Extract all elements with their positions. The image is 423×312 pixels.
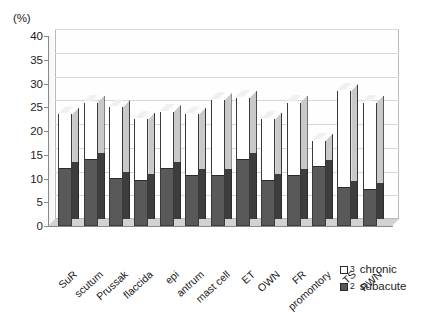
y-axis-tick-label: 25 (30, 101, 43, 113)
chart-legend: 3 chronic 2 subacute (340, 262, 406, 296)
y-axis-tick-label: 20 (30, 125, 43, 137)
gridline (55, 29, 399, 30)
legend-swatch-chronic-icon (340, 266, 348, 274)
x-axis-line (48, 226, 393, 227)
bar-group[interactable] (160, 105, 181, 226)
bar-side-face (351, 84, 358, 219)
x-axis-category-label: FR (289, 268, 307, 286)
bar-front-face (109, 107, 123, 226)
bar-segment-subacute (161, 168, 173, 225)
x-axis-category-label: epi (162, 268, 180, 286)
bar-front-face (363, 103, 377, 227)
bar-side-subacute (98, 153, 105, 220)
bar-group[interactable] (287, 96, 308, 227)
bar-side-face (377, 96, 384, 220)
bar-front-face (211, 100, 225, 226)
y-axis-tick-label: 35 (30, 54, 43, 66)
bar-group[interactable] (236, 91, 257, 226)
y-axis-line (48, 36, 49, 226)
bar-segment-subacute (237, 159, 249, 226)
bar-segment-chronic (338, 90, 350, 187)
bar-segment-subacute (364, 189, 376, 225)
bar-side-subacute (174, 162, 181, 219)
legend-number-chronic: 3 (350, 262, 355, 277)
y-axis-tick-label: 40 (30, 30, 43, 42)
bar-segment-chronic (85, 102, 97, 159)
bar-side-face (174, 105, 181, 219)
bar-side-subacute (199, 169, 206, 219)
y-axis-tick-label: 5 (37, 196, 43, 208)
bar-group[interactable] (211, 93, 232, 226)
y-axis-tick-label: 0 (37, 220, 43, 232)
x-axis-category-label: OWN (255, 268, 282, 294)
bar-segment-chronic (313, 140, 325, 166)
gridline (55, 53, 399, 54)
bar-side-subacute (377, 183, 384, 219)
bar-front-face (160, 112, 174, 226)
bar-side-face (301, 96, 308, 220)
bar-segment-chronic (110, 106, 122, 177)
bar-side-face (148, 112, 155, 219)
legend-label-subacute: subacute (360, 279, 407, 294)
bar-side-subacute (225, 169, 232, 219)
bar-side-subacute (326, 160, 333, 219)
bar-side-face (98, 96, 105, 220)
bar-side-subacute (275, 174, 282, 219)
y-axis-tick-label: 30 (30, 78, 43, 90)
bar-segment-chronic (262, 118, 274, 180)
bar-group[interactable] (109, 100, 130, 226)
legend-swatch-subacute-icon (340, 283, 348, 291)
legend-number-subacute: 2 (350, 279, 355, 294)
y-axis-tick-label: 10 (30, 173, 43, 185)
bar-segment-subacute (135, 180, 147, 225)
bar-group[interactable] (312, 134, 333, 227)
bar-side-subacute (148, 174, 155, 219)
bar-segment-subacute (338, 187, 350, 225)
bar-segment-subacute (85, 159, 97, 226)
bar-segment-subacute (186, 175, 198, 225)
bar-segment-chronic (186, 113, 198, 175)
legend-item-subacute: 2 subacute (340, 279, 406, 294)
bar-segment-chronic (364, 102, 376, 190)
bar-side-subacute (72, 162, 79, 219)
bar-side-face (250, 91, 257, 219)
x-axis-category-label: ET (239, 268, 257, 286)
y-axis-tick-label: 15 (30, 149, 43, 161)
bar-group[interactable] (261, 112, 282, 226)
bar-segment-chronic (212, 99, 224, 175)
bar-front-face (261, 119, 275, 226)
bar-side-face (225, 93, 232, 219)
bar-side-subacute (351, 181, 358, 219)
bar-segment-chronic (135, 118, 147, 180)
plot-area: 0510152025303540 SuRscutumPrussakflaccid… (48, 36, 392, 226)
bar-front-face (185, 114, 199, 226)
bar-group[interactable] (337, 84, 358, 226)
bar-front-face (134, 119, 148, 226)
bar-group[interactable] (363, 96, 384, 227)
bar-segment-subacute (110, 178, 122, 226)
bar-group[interactable] (185, 107, 206, 226)
bar-segment-subacute (288, 175, 300, 225)
bar-front-face (337, 91, 351, 226)
bar-segment-chronic (59, 113, 71, 168)
bar-front-face (58, 114, 72, 226)
bar-segment-subacute (313, 166, 325, 225)
bar-side-subacute (301, 169, 308, 219)
bar-side-face (72, 107, 79, 219)
bar-segment-chronic (237, 97, 249, 159)
bar-side-face (123, 100, 130, 219)
bar-segment-subacute (212, 175, 224, 225)
bar-front-face (236, 98, 250, 226)
bar-side-face (326, 134, 333, 220)
bar-segment-subacute (59, 168, 71, 225)
bar-segment-chronic (161, 111, 173, 168)
bar-front-face (312, 141, 326, 227)
bar-group[interactable] (134, 112, 155, 226)
bar-segment-chronic (288, 102, 300, 176)
bar-side-face (199, 107, 206, 219)
gridline (55, 77, 399, 78)
bar-group[interactable] (58, 107, 79, 226)
bar-front-face (84, 103, 98, 227)
bar-group[interactable] (84, 96, 105, 227)
